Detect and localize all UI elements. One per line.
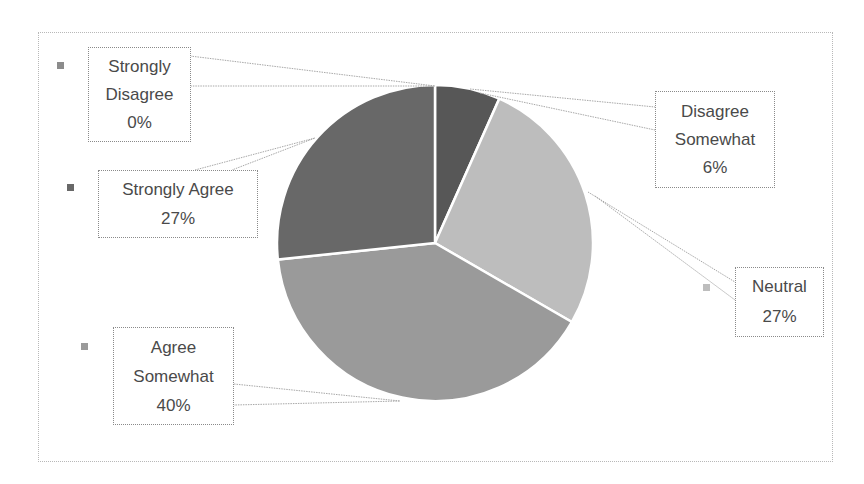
data-label-strongly-agree: Strongly Agree 27% bbox=[98, 170, 258, 238]
label-line1: Neutral bbox=[736, 272, 823, 302]
label-percent: 27% bbox=[736, 302, 823, 332]
legend-marker-strongly-disagree bbox=[57, 62, 64, 69]
data-label-strongly-disagree: Strongly Disagree 0% bbox=[88, 47, 191, 142]
label-line1: Strongly Agree bbox=[99, 175, 257, 204]
label-line1: Disagree bbox=[656, 98, 774, 126]
label-line2: Somewhat bbox=[114, 362, 233, 391]
legend-marker-strongly-agree bbox=[67, 184, 74, 191]
data-label-disagree-somewhat: Disagree Somewhat 6% bbox=[655, 91, 775, 188]
label-line1: Strongly bbox=[89, 53, 190, 81]
leader-line bbox=[588, 192, 735, 300]
label-line2: Disagree bbox=[89, 81, 190, 109]
data-label-agree-somewhat: Agree Somewhat 40% bbox=[113, 327, 234, 425]
label-percent: 40% bbox=[114, 391, 233, 420]
legend-marker-neutral bbox=[703, 284, 710, 291]
label-percent: 27% bbox=[99, 204, 257, 233]
legend-marker-agree-somewhat bbox=[81, 343, 88, 350]
label-percent: 0% bbox=[89, 109, 190, 137]
data-label-neutral: Neutral 27% bbox=[735, 267, 824, 337]
leader-line bbox=[190, 56, 435, 86]
label-line1: Agree bbox=[114, 333, 233, 362]
label-percent: 6% bbox=[656, 154, 774, 182]
pie-slice-strongly-agree bbox=[277, 85, 435, 260]
pie-slices bbox=[277, 85, 593, 401]
label-line2: Somewhat bbox=[656, 126, 774, 154]
